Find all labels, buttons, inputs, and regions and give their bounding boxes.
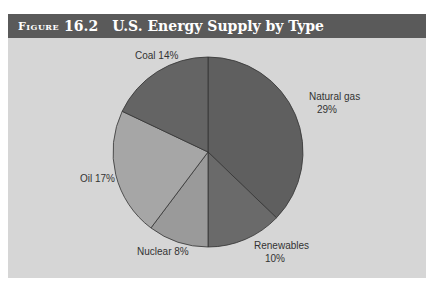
label-oil: Oil 17%	[80, 173, 115, 184]
label-renewables-pct: 10%	[265, 253, 285, 264]
label-renewables: Renewables	[254, 240, 309, 251]
label-natural-gas: Natural gas	[309, 91, 360, 102]
label-coal: Coal 14%	[135, 50, 178, 61]
pie-chart: Coal 14% Natural gas 29% Oil 17% Nuclear…	[0, 0, 437, 287]
label-nuclear: Nuclear 8%	[137, 246, 189, 257]
label-natural-gas-pct: 29%	[317, 104, 337, 115]
